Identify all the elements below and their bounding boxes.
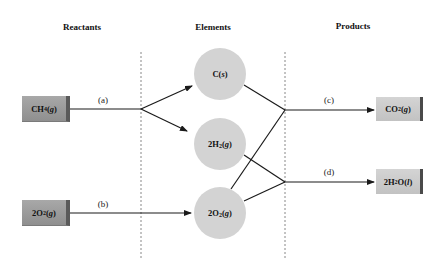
step-label-c: (c) <box>324 95 334 105</box>
element-h2-sub: 2 <box>219 143 222 149</box>
product-h2o-main: 2H <box>384 177 395 187</box>
arrow-to-c <box>141 86 192 109</box>
product-box-h2o: 2H2O(l) <box>376 169 423 194</box>
element-h2-state: g <box>225 139 229 149</box>
product-h2o-tail: O <box>398 177 405 187</box>
path-d-from-h2 <box>244 155 285 182</box>
reactant-box-o2: 2O2(g) <box>22 200 70 226</box>
step-label-d: (d) <box>324 167 335 177</box>
element-label-c: C(s) <box>212 69 227 79</box>
arrow-to-h2 <box>141 109 187 131</box>
element-c-main: C <box>212 69 218 79</box>
product-h2o-state: l <box>407 177 409 187</box>
product-co2-sub: 2 <box>398 106 401 112</box>
reactant-o2-sub: 2 <box>43 210 46 216</box>
reactant-ch4-state: g <box>50 104 54 114</box>
element-o2-sub: 2 <box>219 212 222 218</box>
element-label-o2: 2O2(g) <box>208 208 232 218</box>
reactant-ch4-sub: 4 <box>44 106 47 112</box>
element-label-h2: 2H2(g) <box>208 139 232 149</box>
reaction-pathway-diagram <box>0 0 443 271</box>
step-label-b: (b) <box>98 199 109 209</box>
element-c-state: s <box>221 69 224 79</box>
reactant-box-ch4: CH4(g) <box>22 96 70 122</box>
reactant-ch4-main: CH <box>31 104 44 114</box>
element-o2-state: g <box>225 208 229 218</box>
product-co2-main: CO <box>385 104 398 114</box>
element-h2-main: 2H <box>208 139 219 149</box>
path-c-from-c <box>244 85 285 110</box>
step-label-a: (a) <box>98 95 108 105</box>
path-d-from-o2 <box>244 182 285 201</box>
element-o2-main: 2O <box>208 208 219 218</box>
product-box-co2: CO2(g) <box>376 97 423 121</box>
reactant-o2-state: g <box>49 208 53 218</box>
product-co2-state: g <box>404 104 408 114</box>
reactant-o2-main: 2O <box>32 208 43 218</box>
